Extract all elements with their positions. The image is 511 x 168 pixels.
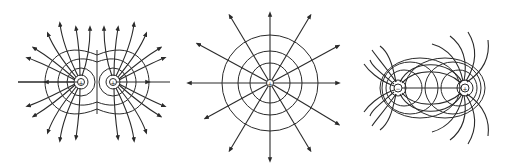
charge-positive-left: + (78, 79, 85, 86)
panel-dipole: − + (364, 32, 488, 144)
panel-like-charges: + + (18, 24, 170, 140)
electric-field-figure: + + + (0, 0, 511, 168)
svg-text:+: + (267, 80, 272, 87)
charge-negative: − (394, 84, 402, 92)
svg-text:+: + (462, 85, 467, 92)
svg-text:+: + (110, 79, 115, 86)
field-lines (18, 24, 170, 140)
field-diagrams: + + + (0, 0, 511, 168)
charge-positive-right: + (110, 79, 117, 86)
svg-text:+: + (78, 79, 83, 86)
charge-positive-center: + (267, 80, 274, 87)
panel-single-charge: + (189, 14, 338, 160)
field-lines (364, 32, 488, 144)
charge-positive: + (461, 84, 469, 92)
svg-text:−: − (395, 85, 400, 92)
